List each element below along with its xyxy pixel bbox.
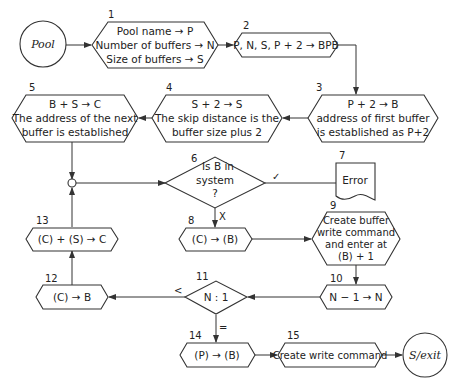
node-4-line-3: buffer size plus 2 xyxy=(172,126,262,138)
node-12-number: 12 xyxy=(45,273,58,284)
node-10-line-1: N − 1 → N xyxy=(329,291,382,303)
node-6-line-3: ? xyxy=(212,187,218,199)
edge-label-yes: ✓ xyxy=(272,171,280,182)
node-1-line-3: Size of buffers → S xyxy=(106,53,204,65)
node-11-line-1: N : 1 xyxy=(204,291,229,303)
node-4-line-1: S + 2 → S xyxy=(192,98,243,110)
node-5-line-2: The address of the next xyxy=(12,112,138,124)
node-6-number: 6 xyxy=(191,153,197,164)
node-1: 1 Pool name → P Number of buffers → N Si… xyxy=(92,9,218,68)
start-terminal: Pool xyxy=(20,21,66,67)
edge-2-3 xyxy=(338,45,356,94)
node-7-line-1: Error xyxy=(342,174,368,186)
node-7: 7 Error xyxy=(336,150,375,200)
node-2-number: 2 xyxy=(243,20,249,31)
node-5-line-1: B + S → C xyxy=(49,98,101,110)
node-11: 11 N : 1 xyxy=(185,271,247,314)
node-3-number: 3 xyxy=(316,82,322,93)
node-14-line-1: (P) → (B) xyxy=(194,349,239,361)
node-3-line-2: address of first buffer xyxy=(316,112,430,124)
junction-connector xyxy=(68,179,76,187)
node-3: 3 P + 2 → B address of first buffer is e… xyxy=(308,82,438,142)
node-13-number: 13 xyxy=(36,215,49,226)
node-9-line-3: and enter at xyxy=(325,239,387,250)
node-8-number: 8 xyxy=(188,215,194,226)
node-4: 4 S + 2 → S The skip distance is the buf… xyxy=(152,82,282,142)
node-5: 5 B + S → C The address of the next buff… xyxy=(12,82,138,142)
node-1-line-2: Number of buffers → N xyxy=(95,39,214,51)
edge-label-equal: = xyxy=(219,322,227,333)
node-8-line-1: (C) → (B) xyxy=(192,233,238,245)
node-12-line-1: (C) → B xyxy=(53,291,91,303)
node-10-number: 10 xyxy=(330,273,343,284)
node-14-number: 14 xyxy=(189,330,202,341)
node-3-line-1: P + 2 → B xyxy=(347,98,398,110)
node-14: 14 (P) → (B) xyxy=(180,330,255,367)
node-3-line-3: is established as P+2 xyxy=(317,126,429,138)
node-1-number: 1 xyxy=(108,9,114,20)
node-15: 15 Create write command xyxy=(273,330,388,367)
node-9-number: 9 xyxy=(330,200,336,211)
node-9-line-1: Create buffer xyxy=(323,215,390,226)
node-9: 9 Create buffer write command and enter … xyxy=(312,200,400,265)
node-6-line-2: system xyxy=(196,174,234,186)
node-6-line-1: Is B in xyxy=(202,160,234,172)
node-4-number: 4 xyxy=(166,82,172,93)
end-terminal: S/exit xyxy=(403,333,447,377)
node-7-number: 7 xyxy=(339,150,345,161)
node-4-line-2: The skip distance is the xyxy=(154,112,279,124)
edge-label-less: < xyxy=(174,285,182,296)
flowchart: ✓ X < = Pool 1 Pool name → P Number of b… xyxy=(0,0,455,390)
node-9-line-4: (B) + 1 xyxy=(338,251,374,262)
node-2: 2 P, N, S, P + 2 → BPB xyxy=(233,20,339,57)
node-9-line-2: write command xyxy=(317,227,395,238)
node-5-number: 5 xyxy=(29,82,35,93)
node-15-line-1: Create write command xyxy=(273,350,388,361)
end-terminal-label: S/exit xyxy=(409,349,441,362)
node-1-line-1: Pool name → P xyxy=(117,25,194,37)
node-6: 6 Is B in system ? xyxy=(165,153,265,208)
node-11-number: 11 xyxy=(196,271,209,282)
node-2-line-1: P, N, S, P + 2 → BPB xyxy=(233,39,339,51)
node-15-number: 15 xyxy=(287,330,300,341)
edge-label-no: X xyxy=(219,211,226,222)
node-13-line-1: (C) + (S) → C xyxy=(38,233,107,245)
node-5-line-3: buffer is established xyxy=(22,126,129,138)
start-terminal-label: Pool xyxy=(30,38,55,51)
